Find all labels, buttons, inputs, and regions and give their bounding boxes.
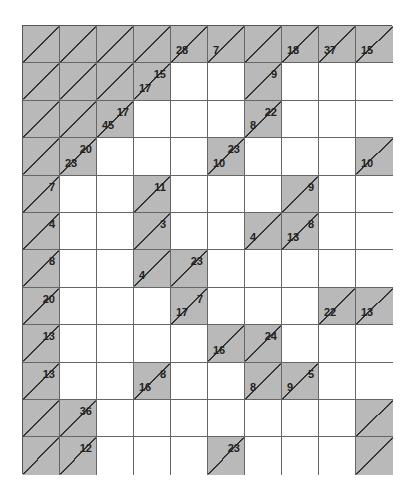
entry-cell[interactable] <box>208 400 245 437</box>
entry-cell[interactable] <box>356 101 393 138</box>
clue-cell: 13 <box>356 288 393 325</box>
entry-cell[interactable] <box>171 63 208 100</box>
entry-cell[interactable] <box>319 138 356 175</box>
down-clue: 17 <box>176 307 188 318</box>
entry-cell[interactable] <box>319 400 356 437</box>
entry-cell[interactable] <box>282 400 319 437</box>
entry-cell[interactable] <box>97 363 134 400</box>
entry-cell[interactable] <box>171 437 208 474</box>
entry-cell[interactable] <box>319 250 356 287</box>
down-clue: 37 <box>324 45 336 56</box>
across-clue: 20 <box>80 144 92 155</box>
down-clue: 10 <box>361 158 373 169</box>
entry-cell[interactable] <box>171 363 208 400</box>
clue-cell: 4 <box>23 213 60 250</box>
entry-cell[interactable] <box>171 325 208 362</box>
entry-cell[interactable] <box>134 325 171 362</box>
across-clue: 9 <box>308 182 314 193</box>
entry-cell[interactable] <box>60 288 97 325</box>
blocked-cell <box>23 400 60 437</box>
entry-cell[interactable] <box>134 101 171 138</box>
down-clue: 15 <box>361 45 373 56</box>
down-clue: 7 <box>213 45 219 56</box>
entry-cell[interactable] <box>245 250 282 287</box>
clue-cell: 816 <box>134 363 171 400</box>
entry-cell[interactable] <box>319 213 356 250</box>
entry-cell[interactable] <box>282 437 319 474</box>
clue-cell: 717 <box>171 288 208 325</box>
clue-cell: 9 <box>245 63 282 100</box>
entry-cell[interactable] <box>134 400 171 437</box>
entry-cell[interactable] <box>356 363 393 400</box>
entry-cell[interactable] <box>356 176 393 213</box>
entry-cell[interactable] <box>60 325 97 362</box>
across-clue: 7 <box>197 294 203 305</box>
entry-cell[interactable] <box>208 213 245 250</box>
entry-cell[interactable] <box>319 363 356 400</box>
entry-cell[interactable] <box>245 400 282 437</box>
blocked-cell <box>23 437 60 474</box>
entry-cell[interactable] <box>208 101 245 138</box>
entry-cell[interactable] <box>319 63 356 100</box>
entry-cell[interactable] <box>208 63 245 100</box>
clue-cell: 3 <box>134 213 171 250</box>
entry-cell[interactable] <box>171 138 208 175</box>
entry-cell[interactable] <box>60 213 97 250</box>
entry-cell[interactable] <box>97 437 134 474</box>
clue-cell: 1745 <box>97 101 134 138</box>
down-clue: 13 <box>287 232 299 243</box>
entry-cell[interactable] <box>171 400 208 437</box>
down-clue: 22 <box>324 307 336 318</box>
entry-cell[interactable] <box>282 138 319 175</box>
clue-cell: 20 <box>23 288 60 325</box>
clue-cell: 4 <box>134 250 171 287</box>
entry-cell[interactable] <box>208 288 245 325</box>
across-clue: 8 <box>49 256 55 267</box>
entry-cell[interactable] <box>356 213 393 250</box>
entry-cell[interactable] <box>282 63 319 100</box>
entry-cell[interactable] <box>171 213 208 250</box>
blocked-cell <box>23 26 60 63</box>
clue-cell: 22 <box>319 288 356 325</box>
entry-cell[interactable] <box>245 176 282 213</box>
entry-cell[interactable] <box>282 325 319 362</box>
blocked-cell <box>245 26 282 63</box>
entry-cell[interactable] <box>319 101 356 138</box>
entry-cell[interactable] <box>282 288 319 325</box>
entry-cell[interactable] <box>97 213 134 250</box>
entry-cell[interactable] <box>356 250 393 287</box>
entry-cell[interactable] <box>97 138 134 175</box>
entry-cell[interactable] <box>245 437 282 474</box>
entry-cell[interactable] <box>208 363 245 400</box>
clue-cell: 13 <box>23 325 60 362</box>
entry-cell[interactable] <box>208 176 245 213</box>
entry-cell[interactable] <box>97 250 134 287</box>
entry-cell[interactable] <box>97 325 134 362</box>
entry-cell[interactable] <box>60 363 97 400</box>
entry-cell[interactable] <box>60 250 97 287</box>
entry-cell[interactable] <box>282 250 319 287</box>
entry-cell[interactable] <box>319 176 356 213</box>
across-clue: 20 <box>43 294 55 305</box>
entry-cell[interactable] <box>319 325 356 362</box>
clue-cell: 24 <box>245 325 282 362</box>
clue-cell: 28 <box>171 26 208 63</box>
entry-cell[interactable] <box>245 288 282 325</box>
entry-cell[interactable] <box>171 176 208 213</box>
entry-cell[interactable] <box>245 138 282 175</box>
entry-cell[interactable] <box>356 325 393 362</box>
entry-cell[interactable] <box>171 101 208 138</box>
entry-cell[interactable] <box>356 63 393 100</box>
entry-cell[interactable] <box>60 176 97 213</box>
clue-cell: 12 <box>60 437 97 474</box>
entry-cell[interactable] <box>282 101 319 138</box>
entry-cell[interactable] <box>97 288 134 325</box>
entry-cell[interactable] <box>134 437 171 474</box>
entry-cell[interactable] <box>134 138 171 175</box>
entry-cell[interactable] <box>319 437 356 474</box>
entry-cell[interactable] <box>208 250 245 287</box>
entry-cell[interactable] <box>134 288 171 325</box>
clue-cell: 228 <box>245 101 282 138</box>
entry-cell[interactable] <box>97 400 134 437</box>
entry-cell[interactable] <box>97 176 134 213</box>
